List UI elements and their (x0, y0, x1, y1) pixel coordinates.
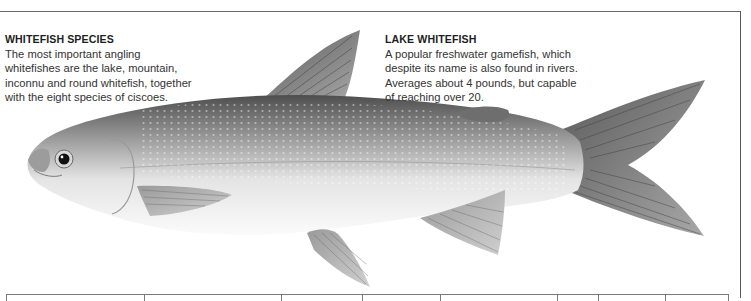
table-column-separator (440, 295, 441, 301)
table-column-separator (557, 295, 558, 301)
caption-body: A popular freshwater gamefish, which des… (385, 47, 585, 105)
whitefish-species-caption: WHITEFISH SPECIES The most important ang… (5, 32, 195, 105)
table-column-separator (598, 295, 599, 301)
caption-body: The most important angling whitefishes a… (5, 47, 195, 105)
pelvic-fin (307, 229, 370, 287)
caption-title: LAKE WHITEFISH (385, 32, 585, 47)
species-table-top (6, 294, 729, 301)
fish-eye (55, 150, 73, 168)
table-column-separator (362, 295, 363, 301)
table-column-separator (144, 295, 145, 301)
dorsal-fin (262, 30, 360, 100)
caption-title: WHITEFISH SPECIES (5, 32, 195, 47)
lake-whitefish-caption: LAKE WHITEFISH A popular freshwater game… (385, 32, 585, 105)
table-column-separator (281, 295, 282, 301)
table-column-separator (665, 295, 666, 301)
